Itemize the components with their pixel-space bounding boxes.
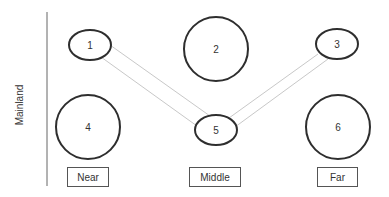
node-1[interactable]: 1	[69, 30, 111, 60]
zone-middle-label: Middle	[200, 172, 230, 183]
node-5[interactable]: 5	[195, 115, 237, 145]
node-2[interactable]: 2	[184, 17, 248, 81]
node-5-label: 5	[213, 125, 219, 136]
node-1-label: 1	[87, 40, 93, 51]
node-6[interactable]: 6	[306, 95, 370, 159]
mainland-axis-label: Mainland	[14, 85, 25, 126]
node-3[interactable]: 3	[316, 29, 358, 59]
zone-far: Far	[318, 168, 358, 187]
node-3-label: 3	[334, 39, 340, 50]
zone-far-label: Far	[330, 172, 346, 183]
zone-middle: Middle	[190, 168, 241, 187]
node-2-label: 2	[213, 44, 219, 55]
node-6-label: 6	[335, 122, 341, 133]
node-4[interactable]: 4	[56, 95, 120, 159]
node-4-label: 4	[85, 122, 91, 133]
diagram-canvas: Mainland 1 2 3 4 5 6 Near	[0, 0, 389, 197]
zone-near-label: Near	[77, 172, 99, 183]
zone-near: Near	[68, 168, 109, 187]
